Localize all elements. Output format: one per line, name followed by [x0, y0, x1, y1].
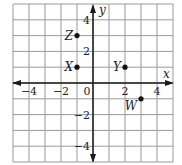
point-label: X — [63, 60, 73, 74]
y-tick-label: 4 — [83, 14, 90, 27]
point-marker — [138, 96, 143, 101]
x-tick-label: −4 — [21, 85, 37, 98]
point-label: W — [125, 99, 139, 113]
x-tick-label: 2 — [122, 85, 129, 98]
y-tick-label: −2 — [74, 109, 90, 122]
point-marker — [74, 33, 79, 38]
axes: yx — [12, 3, 174, 163]
coordinate-plane: yx −4−202442−2−4 ZXYW — [0, 0, 182, 165]
x-tick-label: 4 — [154, 85, 161, 98]
y-axis-arrow-up-icon — [90, 4, 96, 13]
x-tick-label: 0 — [84, 85, 91, 98]
x-axis-label: x — [163, 67, 170, 81]
y-tick-label: 2 — [83, 45, 90, 58]
plotted-points: ZXYW — [63, 29, 143, 113]
point-label: Y — [113, 60, 122, 74]
point-marker — [122, 65, 127, 70]
point-marker — [74, 65, 79, 70]
point-label: Z — [64, 29, 74, 43]
x-tick-label: −2 — [53, 85, 69, 98]
y-axis-label: y — [98, 3, 106, 17]
y-tick-label: −4 — [74, 140, 90, 153]
